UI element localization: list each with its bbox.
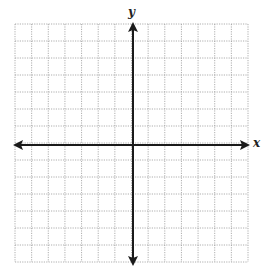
grid-lines	[15, 24, 248, 262]
x-axis-label: x	[253, 136, 260, 150]
coordinate-grid	[0, 0, 268, 279]
y-axis-label: y	[128, 5, 135, 19]
